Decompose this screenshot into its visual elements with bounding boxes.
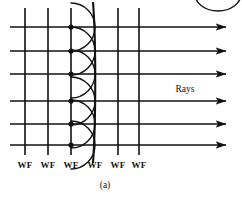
wavefront-label-2: WF xyxy=(41,161,56,170)
figure-caption: (a) xyxy=(100,181,111,191)
wavefront-label-4: WF xyxy=(88,161,103,170)
wavelet-source-dot xyxy=(68,71,73,76)
wavefront-label-3: WF xyxy=(64,161,79,170)
rays-label: Rays xyxy=(176,85,195,95)
wavelet-source-dot xyxy=(68,121,73,126)
wavelet-source-dot xyxy=(68,48,73,53)
wavefront-label-5: WF xyxy=(111,161,126,170)
corner-circle-mark xyxy=(195,0,241,11)
huygens-wavefront-figure: WF WF WF WF WF WF Rays (a) xyxy=(0,0,242,198)
wavelet-source-dot xyxy=(68,24,73,29)
wavelet-source-dot xyxy=(68,98,73,103)
secondary-wavelets-group xyxy=(71,3,95,169)
wavelet-source-dot xyxy=(68,142,73,147)
wavefront-label-1: WF xyxy=(18,161,33,170)
wavefront-label-6: WF xyxy=(132,161,147,170)
